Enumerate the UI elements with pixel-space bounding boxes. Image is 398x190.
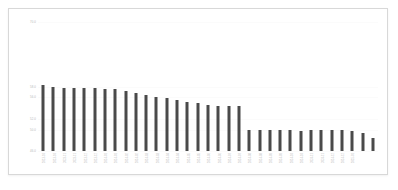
- x-axis-tick: 2024-03: [147, 153, 150, 175]
- bar-slot: [151, 22, 161, 151]
- y-axis-tick: 58.0: [11, 85, 36, 88]
- bar[interactable]: [114, 89, 117, 151]
- bar[interactable]: [320, 130, 323, 151]
- bar-slot: [234, 22, 244, 151]
- x-axis-tick: 2024-01: [106, 153, 109, 175]
- x-axis-tick: 2024-06: [220, 153, 223, 175]
- bar-slot: [306, 22, 316, 151]
- bar-slot: [79, 22, 89, 151]
- bar[interactable]: [361, 133, 364, 151]
- x-axis-tick: 2023-11: [65, 153, 68, 175]
- bar[interactable]: [279, 130, 282, 151]
- x-axis-tick: 2024-11: [323, 153, 326, 175]
- x-axis-tick: 2023-12: [96, 153, 99, 175]
- bar-slot: [254, 22, 264, 151]
- bar[interactable]: [371, 138, 374, 151]
- bar-slot: [223, 22, 233, 151]
- bar[interactable]: [73, 88, 76, 151]
- bar[interactable]: [310, 130, 313, 151]
- bar[interactable]: [289, 130, 292, 151]
- x-axis-tick: 2023-12: [86, 153, 89, 175]
- bar-slot: [100, 22, 110, 151]
- bar-slot: [131, 22, 141, 151]
- x-axis-tick: 2024-02: [137, 153, 140, 175]
- bar[interactable]: [268, 130, 271, 151]
- x-axis-tick: 2024-09: [281, 153, 284, 175]
- x-axis-tick: 2023-10: [55, 153, 58, 175]
- y-axis-tick: 56.0: [11, 96, 36, 99]
- bar-slot: [213, 22, 223, 151]
- x-axis-tick: 2024-04: [178, 153, 181, 175]
- bar[interactable]: [227, 106, 230, 151]
- bar[interactable]: [145, 95, 148, 151]
- x-axis-tick: 2024-02: [127, 153, 130, 175]
- x-axis-tick: 2024-05: [199, 153, 202, 175]
- bar-slot: [110, 22, 120, 151]
- bar-slot: [265, 22, 275, 151]
- bar[interactable]: [52, 87, 55, 152]
- y-gridline: [38, 151, 378, 152]
- x-axis-tick: 2024-12: [333, 153, 336, 175]
- bar[interactable]: [186, 102, 189, 151]
- bar-slot: [285, 22, 295, 151]
- x-axis-tick: 2024-12: [343, 153, 346, 175]
- chart-card: 70.058.056.052.050.046.0 2023-102023-102…: [8, 8, 388, 175]
- bar[interactable]: [83, 88, 86, 151]
- bar-slot: [347, 22, 357, 151]
- bar[interactable]: [93, 88, 96, 151]
- bar[interactable]: [42, 85, 45, 151]
- bar[interactable]: [62, 88, 65, 151]
- bar[interactable]: [248, 130, 251, 152]
- x-axis-tick-labels: 2023-102023-102023-112023-112023-122023-…: [38, 153, 378, 175]
- x-axis-tick: 2024-08: [261, 153, 264, 175]
- x-axis-tick: 2024-03: [158, 153, 161, 175]
- bar[interactable]: [351, 131, 354, 151]
- x-axis-tick: 2024-09: [271, 153, 274, 175]
- x-axis-tick: 2024-11: [312, 153, 315, 175]
- bar-slot: [59, 22, 69, 151]
- bar[interactable]: [165, 98, 168, 151]
- bar-slot: [357, 22, 367, 151]
- bar[interactable]: [237, 106, 240, 151]
- x-axis-tick: 2024-04: [168, 153, 171, 175]
- y-axis-tick: 70.0: [11, 21, 36, 24]
- bar[interactable]: [176, 100, 179, 151]
- x-axis-tick: 2024-06: [209, 153, 212, 175]
- bar-slot: [275, 22, 285, 151]
- x-axis-tick: 2024-10: [302, 153, 305, 175]
- bar-slot: [172, 22, 182, 151]
- bar-slot: [244, 22, 254, 151]
- y-axis-tick: 52.0: [11, 117, 36, 120]
- bar-slot: [141, 22, 151, 151]
- bar[interactable]: [330, 130, 333, 151]
- bar-slot: [316, 22, 326, 151]
- bar[interactable]: [217, 106, 220, 151]
- bar-slot: [193, 22, 203, 151]
- x-axis-tick: 2024-10: [292, 153, 295, 175]
- bar[interactable]: [134, 93, 137, 151]
- bar-slot: [162, 22, 172, 151]
- bar-series: [38, 22, 378, 151]
- bar[interactable]: [299, 131, 302, 151]
- x-axis-tick: 2023-10: [44, 153, 47, 175]
- bar-slot: [326, 22, 336, 151]
- bar[interactable]: [258, 130, 261, 151]
- x-axis-tick: 2024-07: [240, 153, 243, 175]
- bar-slot: [48, 22, 58, 151]
- y-axis-tick: 46.0: [11, 150, 36, 153]
- plot-area: 70.058.056.052.050.046.0: [38, 22, 378, 151]
- bar-slot: [337, 22, 347, 151]
- bar-slot: [296, 22, 306, 151]
- y-axis-tick: 50.0: [11, 128, 36, 131]
- bar[interactable]: [155, 97, 158, 151]
- bar[interactable]: [196, 103, 199, 151]
- bar-slot: [120, 22, 130, 151]
- bar[interactable]: [206, 105, 209, 151]
- x-axis-tick: 2023-11: [75, 153, 78, 175]
- bar[interactable]: [103, 89, 106, 151]
- bar-slot: [90, 22, 100, 151]
- bar-slot: [368, 22, 378, 151]
- bar[interactable]: [124, 91, 127, 151]
- x-axis-tick: 2024-05: [189, 153, 192, 175]
- bar[interactable]: [340, 130, 343, 151]
